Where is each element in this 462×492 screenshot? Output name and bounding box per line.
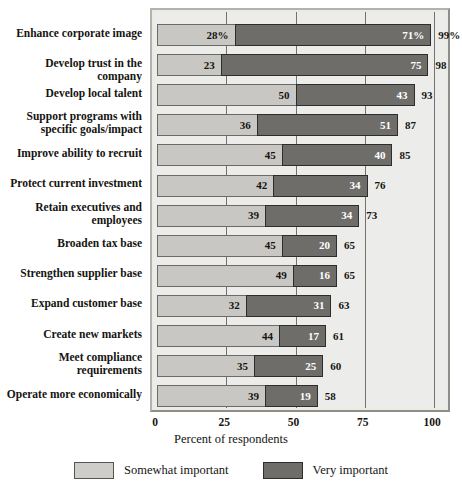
- bar-segment-somewhat-important[interactable]: 35: [157, 355, 254, 377]
- bar-segment-value: 23: [204, 60, 221, 71]
- x-tick-label: 50: [288, 416, 300, 428]
- legend-item[interactable]: Very important: [263, 462, 388, 479]
- bar-segment-somewhat-important[interactable]: 50: [157, 84, 296, 106]
- bar-segment-very-important[interactable]: 16: [293, 265, 337, 287]
- x-axis-title: Percent of respondents: [0, 432, 462, 447]
- bar-segment-very-important[interactable]: 40: [282, 144, 393, 166]
- bar-row: 454085: [154, 144, 446, 166]
- bar-segment-value: 36: [240, 120, 257, 131]
- bar-segment-value: 44: [262, 331, 279, 342]
- category-label-line: Create new markets: [0, 328, 142, 341]
- bar-segment-very-important[interactable]: 20: [282, 235, 337, 257]
- category-label-line: requirements: [0, 364, 142, 377]
- legend-item[interactable]: Somewhat important: [74, 462, 229, 479]
- stacked-bar[interactable]: 3525: [157, 355, 323, 377]
- bar-row: 323163: [154, 295, 446, 317]
- bar-segment-somewhat-important[interactable]: 36: [157, 114, 257, 136]
- bar-segment-very-important[interactable]: 43: [296, 84, 415, 106]
- bar-segment-value: 19: [300, 391, 317, 402]
- stacked-bar-chart: 28%71%99%2375985043933651874540854234763…: [0, 0, 462, 492]
- bar-segment-very-important[interactable]: 75: [221, 54, 429, 76]
- stacked-bar[interactable]: 4916: [157, 265, 337, 287]
- category-label: Enhance corporate image: [0, 27, 146, 40]
- category-label-line: Broaden tax base: [0, 237, 142, 250]
- bar-segment-very-important[interactable]: 25: [254, 355, 323, 377]
- category-label-line: Strengthen supplier base: [0, 267, 142, 280]
- stacked-bar[interactable]: 4520: [157, 235, 337, 257]
- stacked-bar[interactable]: 4417: [157, 325, 326, 347]
- category-label: Strengthen supplier base: [0, 267, 146, 280]
- bar-segment-very-important[interactable]: 17: [279, 325, 326, 347]
- bar-segment-somewhat-important[interactable]: 42: [157, 175, 273, 197]
- stacked-bar[interactable]: 4540: [157, 144, 392, 166]
- bar-total-value: 61: [328, 325, 344, 347]
- bar-segment-very-important[interactable]: 34: [273, 175, 367, 197]
- bar-segment-value: 28%: [207, 30, 235, 41]
- category-label-line: Operate more economically: [0, 388, 142, 401]
- x-tick-label: 25: [219, 416, 231, 428]
- category-label-line: Expand customer base: [0, 297, 142, 310]
- bar-segment-very-important[interactable]: 19: [265, 385, 318, 407]
- plot-inner: 28%71%99%2375985043933651874540854234763…: [154, 12, 446, 408]
- category-label-line: Support programs with: [0, 110, 142, 123]
- bar-segment-somewhat-important[interactable]: 23: [157, 54, 221, 76]
- bar-segment-somewhat-important[interactable]: 28%: [157, 24, 235, 46]
- bar-total-value: 93: [417, 84, 433, 106]
- stacked-bar[interactable]: 2375: [157, 54, 428, 76]
- bar-segment-somewhat-important[interactable]: 32: [157, 295, 246, 317]
- category-label-line: Meet compliance: [0, 351, 142, 364]
- category-label-line: Improve ability to recruit: [0, 147, 142, 160]
- stacked-bar[interactable]: 3651: [157, 114, 398, 136]
- stacked-bar[interactable]: 4234: [157, 175, 368, 197]
- bar-segment-very-important[interactable]: 71%: [235, 24, 432, 46]
- category-label: Protect current investment: [0, 177, 146, 190]
- category-label: Develop trust in the company: [0, 57, 146, 83]
- bar-row: 452065: [154, 235, 446, 257]
- bar-segment-very-important[interactable]: 34: [265, 205, 359, 227]
- bar-segment-value: 32: [229, 300, 246, 311]
- legend-label: Somewhat important: [124, 463, 229, 478]
- legend-swatch-very: [263, 462, 303, 479]
- bar-row: 491665: [154, 265, 446, 287]
- bar-segment-somewhat-important[interactable]: 44: [157, 325, 279, 347]
- bar-total-value: 98: [430, 54, 446, 76]
- category-label: Retain executives andemployees: [0, 201, 146, 227]
- category-label: Develop local talent: [0, 87, 146, 100]
- category-label: Expand customer base: [0, 297, 146, 310]
- category-label: Meet compliancerequirements: [0, 351, 146, 377]
- bar-segment-somewhat-important[interactable]: 45: [157, 235, 282, 257]
- bar-segment-value: 16: [319, 270, 336, 281]
- bar-segment-value: 39: [248, 210, 265, 221]
- bar-segment-somewhat-important[interactable]: 45: [157, 144, 282, 166]
- legend-label: Very important: [313, 463, 388, 478]
- bar-segment-value: 50: [279, 90, 296, 101]
- bar-segment-somewhat-important[interactable]: 39: [157, 385, 265, 407]
- bar-row: 441761: [154, 325, 446, 347]
- category-label: Operate more economically: [0, 388, 146, 401]
- bar-row: 352560: [154, 355, 446, 377]
- bar-segment-very-important[interactable]: 51: [257, 114, 398, 136]
- stacked-bar[interactable]: 3231: [157, 295, 331, 317]
- stacked-bar[interactable]: 3934: [157, 205, 359, 227]
- bar-segment-value: 51: [380, 120, 397, 131]
- bar-segment-somewhat-important[interactable]: 49: [157, 265, 293, 287]
- stacked-bar[interactable]: 3919: [157, 385, 318, 407]
- bar-segment-very-important[interactable]: 31: [246, 295, 332, 317]
- bar-total-value: 87: [400, 114, 416, 136]
- category-label-line: Retain executives and: [0, 201, 142, 214]
- bar-segment-value: 31: [313, 300, 330, 311]
- bar-segment-value: 45: [265, 240, 282, 251]
- category-label-line: Protect current investment: [0, 177, 142, 190]
- bar-segment-value: 34: [350, 180, 367, 191]
- category-label: Improve ability to recruit: [0, 147, 146, 160]
- bar-total-value: 60: [325, 355, 341, 377]
- bar-total-value: 58: [320, 385, 336, 407]
- bar-total-value: 85: [394, 144, 410, 166]
- stacked-bar[interactable]: 28%71%: [157, 24, 431, 46]
- legend-swatch-somewhat: [74, 462, 114, 479]
- stacked-bar[interactable]: 5043: [157, 84, 415, 106]
- category-label: Support programs withspecific goals/impa…: [0, 110, 146, 136]
- bar-segment-somewhat-important[interactable]: 39: [157, 205, 265, 227]
- bar-row: 237598: [154, 54, 446, 76]
- bar-total-value: 65: [339, 265, 355, 287]
